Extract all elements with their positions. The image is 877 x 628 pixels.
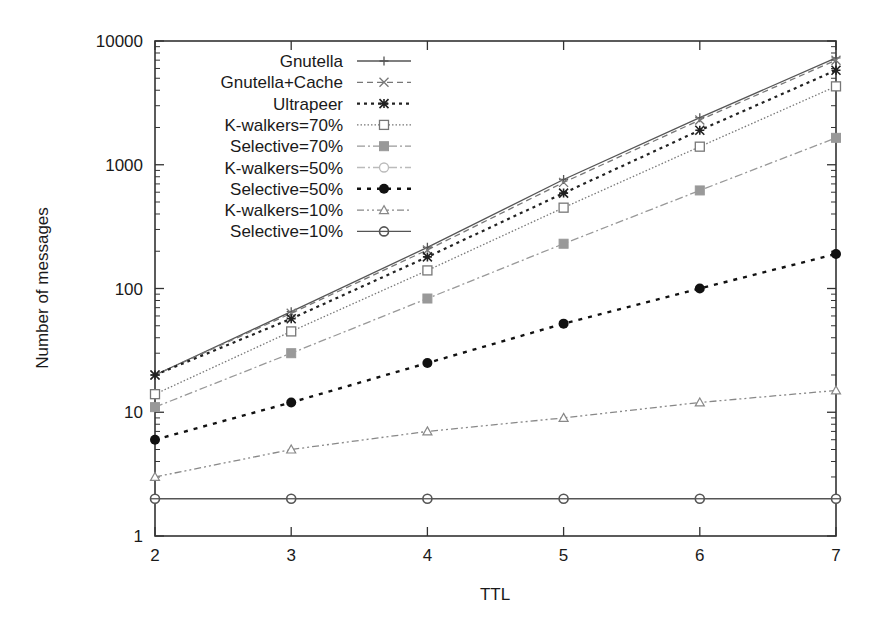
- filled-circle-marker-icon: [695, 284, 705, 294]
- legend-entry: K-walkers=50%: [224, 159, 411, 178]
- legend-entry: Gnutella+Cache: [221, 73, 411, 92]
- line-chart: Number of messages TTL 11010010001000023…: [0, 0, 877, 628]
- open-circle-marker-icon: [380, 163, 389, 172]
- y-tick-label: 10: [124, 403, 143, 422]
- filled-circle-marker-icon: [286, 397, 296, 407]
- star-marker-icon: [380, 99, 389, 108]
- filled-square-marker-icon: [423, 294, 432, 303]
- x-tick-label: 3: [286, 546, 295, 565]
- series-k-walkers-10-: [151, 386, 841, 480]
- filled-square-marker-icon: [151, 403, 160, 412]
- legend-label: K-walkers=10%: [224, 201, 343, 220]
- star-marker-icon: [832, 66, 841, 75]
- legend-label: Selective=70%: [230, 137, 343, 156]
- legend-entry: K-walkers=10%: [224, 201, 411, 220]
- open-square-marker-icon: [151, 390, 160, 399]
- x-tick-label: 5: [559, 546, 568, 565]
- star-marker-icon: [287, 314, 296, 323]
- circle-ring-marker-icon: [287, 494, 296, 503]
- open-square-marker-icon: [832, 82, 841, 91]
- legend-entry: K-walkers=70%: [224, 116, 411, 135]
- legend-label: Gnutella+Cache: [221, 73, 343, 92]
- circle-ring-marker-icon: [695, 494, 704, 503]
- legend-label: Selective=50%: [230, 180, 343, 199]
- filled-circle-marker-icon: [150, 435, 160, 445]
- x-tick-label: 4: [423, 546, 432, 565]
- filled-square-marker-icon: [287, 349, 296, 358]
- star-marker-icon: [695, 126, 704, 135]
- y-tick-label: 10000: [96, 32, 143, 51]
- filled-circle-marker-icon: [422, 358, 432, 368]
- series-selective-10-: [151, 494, 841, 503]
- y-axis-label: Number of messages: [33, 207, 52, 369]
- circle-ring-marker-icon: [423, 494, 432, 503]
- legend: GnutellaGnutella+CacheUltrapeerK-walkers…: [221, 52, 411, 241]
- circle-ring-marker-icon: [151, 494, 160, 503]
- star-marker-icon: [559, 189, 568, 198]
- open-triangle-marker-icon: [832, 386, 841, 394]
- plot-area: 110100100010000234567: [96, 32, 841, 565]
- open-square-marker-icon: [423, 266, 432, 275]
- plus-marker-icon: [380, 57, 389, 66]
- circle-ring-marker-icon: [380, 227, 389, 236]
- legend-label: Gnutella: [280, 52, 344, 71]
- x-tick-label: 6: [695, 546, 704, 565]
- open-square-marker-icon: [380, 120, 389, 129]
- x-axis-label: TTL: [480, 585, 510, 604]
- legend-label: Selective=10%: [230, 222, 343, 241]
- y-axis-title: Number of messages: [33, 207, 52, 369]
- circle-ring-marker-icon: [559, 494, 568, 503]
- y-tick-label: 100: [115, 280, 143, 299]
- open-triangle-marker-icon: [423, 427, 432, 435]
- filled-circle-marker-icon: [831, 249, 841, 259]
- legend-label: Ultrapeer: [273, 95, 343, 114]
- star-marker-icon: [151, 370, 160, 379]
- legend-label: K-walkers=70%: [224, 116, 343, 135]
- open-square-marker-icon: [287, 327, 296, 336]
- filled-square-marker-icon: [695, 186, 704, 195]
- filled-square-marker-icon: [832, 133, 841, 142]
- x-tick-label: 2: [150, 546, 159, 565]
- circle-ring-marker-icon: [832, 494, 841, 503]
- series-selective-50-: [150, 249, 841, 445]
- y-tick-label: 1000: [105, 156, 143, 175]
- legend-label: K-walkers=50%: [224, 159, 343, 178]
- open-triangle-marker-icon: [695, 398, 704, 406]
- open-square-marker-icon: [695, 142, 704, 151]
- filled-square-marker-icon: [559, 239, 568, 248]
- legend-entry: Gnutella: [280, 52, 411, 71]
- filled-circle-marker-icon: [379, 184, 389, 194]
- legend-entry: Selective=70%: [230, 137, 411, 156]
- filled-square-marker-icon: [380, 142, 389, 151]
- open-square-marker-icon: [559, 203, 568, 212]
- legend-entry: Ultrapeer: [273, 95, 411, 114]
- star-marker-icon: [423, 252, 432, 261]
- legend-entry: Selective=10%: [230, 222, 411, 241]
- legend-entry: Selective=50%: [230, 180, 411, 199]
- y-tick-label: 1: [134, 527, 143, 546]
- filled-circle-marker-icon: [559, 319, 569, 329]
- x-tick-label: 7: [831, 546, 840, 565]
